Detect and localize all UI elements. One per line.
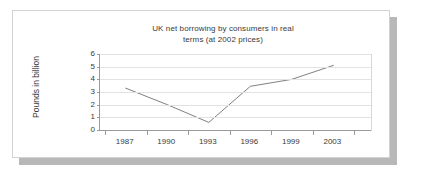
- y-axis-tickmark: [97, 92, 100, 93]
- y-axis-tick-label: 0: [83, 126, 95, 134]
- x-axis-tickmark: [313, 131, 314, 135]
- y-axis-tick-labels: 0123456: [83, 48, 95, 128]
- y-axis-tickmark: [97, 79, 100, 80]
- x-axis-tickmark: [188, 131, 189, 135]
- plot-right-border: [371, 54, 372, 131]
- y-axis-tickmark: [97, 67, 100, 68]
- y-axis-title: Pounds in billion: [31, 41, 41, 133]
- gridline: [100, 54, 372, 55]
- y-axis-tick-label: 6: [83, 50, 95, 58]
- y-axis-tick-label: 2: [83, 101, 95, 109]
- x-axis-tick-label: 2003: [312, 137, 352, 147]
- x-axis-tick-label: 1993: [188, 137, 228, 147]
- gridline: [100, 79, 372, 80]
- x-axis-tick-labels: 198719901993199619992003: [99, 137, 371, 149]
- x-axis-tick-label: 1996: [229, 137, 269, 147]
- x-axis-tickmark: [354, 131, 355, 135]
- chart-card: UK net borrowing by consumers in real te…: [12, 10, 390, 158]
- x-axis-tick-label: 1990: [146, 137, 186, 147]
- screenshot-root: UK net borrowing by consumers in real te…: [0, 0, 444, 174]
- gridline: [100, 67, 372, 68]
- x-axis-tickmark: [147, 131, 148, 135]
- gridline: [100, 105, 372, 106]
- gridline: [100, 117, 372, 118]
- y-axis-tick-label: 3: [83, 88, 95, 96]
- chart-plot-region: Pounds in billion 0123456 19871990199319…: [13, 11, 391, 159]
- x-axis-tickmark: [271, 131, 272, 135]
- y-axis-tickmark: [97, 54, 100, 55]
- y-axis-tickmark: [97, 117, 100, 118]
- gridline: [100, 92, 372, 93]
- y-axis-tick-label: 1: [83, 113, 95, 121]
- y-axis-tick-label: 5: [83, 63, 95, 71]
- y-axis-tick-label: 4: [83, 75, 95, 83]
- plot-box: [99, 54, 372, 131]
- x-axis-tick-label: 1999: [271, 137, 311, 147]
- y-axis-tickmark: [97, 105, 100, 106]
- y-axis-tickmark: [97, 130, 100, 131]
- series-line: [126, 65, 334, 122]
- x-axis-tickmark: [105, 131, 106, 135]
- x-axis-tickmark: [230, 131, 231, 135]
- x-axis-tick-label: 1987: [105, 137, 145, 147]
